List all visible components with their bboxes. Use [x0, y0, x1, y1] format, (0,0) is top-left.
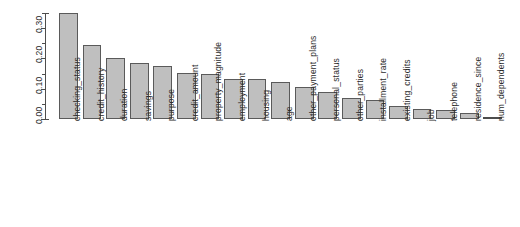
x-axis-tick-label: num_dependents [496, 53, 506, 122]
x-axis-tick-label: personal_status [331, 58, 341, 121]
y-axis-tick-label: 0.00 [34, 115, 44, 132]
x-axis-tick-label: purpose [166, 89, 176, 121]
x-axis-tick-label: housing [261, 90, 271, 121]
x-axis-tick-label: job [426, 109, 436, 121]
x-axis-tick-label: credit_history [96, 68, 106, 121]
y-axis-tick-label-text: 0.30 [34, 16, 44, 33]
x-axis-tick-label: other_parties [355, 69, 365, 121]
y-axis-tick-label-text: 0.10 [34, 76, 44, 93]
x-axis-tick-label: other_payment_plans [308, 35, 318, 121]
y-axis-minor-tick [42, 43, 45, 44]
x-axis-tick-label: employment [237, 73, 247, 121]
feature-importance-bar-chart: 0.000.100.200.30 checking_statuscredit_h… [0, 0, 520, 227]
x-axis-tick-label: credit_amount [190, 65, 200, 121]
y-axis-tick-label: 0.10 [34, 85, 44, 102]
x-axis-tick-label: existing_credits [402, 59, 412, 121]
y-axis-tick-label-text: 0.00 [34, 107, 44, 124]
y-axis-line [45, 13, 46, 119]
y-axis-tick-label: 0.30 [34, 24, 44, 41]
y-axis-tick-label: 0.20 [34, 55, 44, 72]
x-axis-tick-label: age [284, 106, 294, 121]
y-axis-end-cap [45, 13, 49, 14]
y-axis-end-cap [45, 119, 49, 120]
y-axis: 0.000.100.200.30 [0, 0, 52, 227]
x-axis-tick-label: checking_status [72, 57, 82, 121]
x-axis-tick-label: property_magnitude [213, 42, 223, 121]
x-axis-tick-labels: checking_statuscredit_historydurationsav… [52, 121, 514, 227]
y-axis-minor-tick [42, 74, 45, 75]
y-axis-minor-tick [42, 104, 45, 105]
x-axis-tick-label: duration [119, 89, 129, 121]
y-axis-tick-label-text: 0.20 [34, 46, 44, 63]
x-axis-tick-label: savings [143, 91, 153, 121]
x-axis-tick-label: residence_since [473, 57, 483, 121]
y-axis-minor-tick [42, 13, 45, 14]
x-axis-tick-label: installment_rate [378, 58, 388, 121]
x-axis-tick-label: telephone [449, 82, 459, 121]
